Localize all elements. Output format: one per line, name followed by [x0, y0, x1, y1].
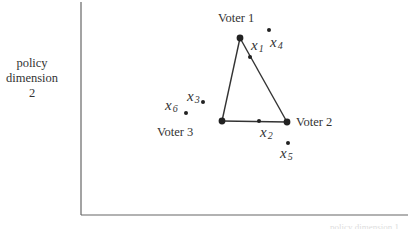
x1-label: x1 [251, 37, 264, 54]
x1-point [248, 55, 252, 59]
x2-label: x2 [260, 124, 273, 141]
x-axis-label-clipped: policy dimension 1 [330, 222, 399, 229]
x3-label: x3 [187, 88, 200, 105]
edge-voter3-voter1 [222, 38, 240, 121]
voter-1-point [237, 35, 244, 42]
voter-2-label: Voter 2 [296, 115, 332, 130]
voter-1-label: Voter 1 [218, 11, 254, 26]
y-axis-label-line-2: dimension [0, 71, 64, 86]
diagram-canvas [0, 0, 408, 229]
x3-point [201, 100, 205, 104]
x6-label: x6 [165, 97, 178, 114]
x6-point [184, 111, 188, 115]
voter-2-point [284, 119, 291, 126]
x5-label: x5 [280, 145, 293, 162]
x2-point [257, 119, 261, 123]
spatial-voting-diagram: policy dimension 2 Voter 1 Voter 2 Voter… [0, 0, 408, 229]
x4-label: x4 [270, 34, 283, 51]
edge-voter3-voter2 [222, 121, 287, 122]
y-axis-label-line-3: 2 [0, 86, 64, 101]
voter-3-point [219, 118, 226, 125]
x4-point [267, 28, 271, 32]
voter-3-label: Voter 3 [157, 125, 193, 140]
y-axis-label: policy dimension 2 [0, 56, 64, 101]
y-axis-label-line-1: policy [0, 56, 64, 71]
